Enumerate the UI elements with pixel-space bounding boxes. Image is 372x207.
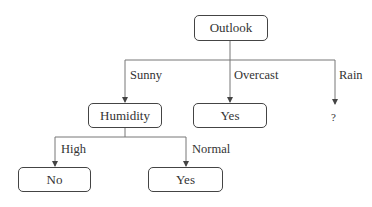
overcast-edge-label: Overcast (234, 69, 278, 82)
rain-unknown-node: ? (331, 112, 336, 123)
outlook-node-label: Outlook (210, 20, 253, 36)
overcast-yes-node: Yes (193, 103, 267, 128)
high-no-node-label: No (47, 172, 63, 188)
normal-edge-label: Normal (192, 143, 230, 156)
humidity-node: Humidity (88, 103, 162, 128)
normal-yes-node: Yes (148, 167, 223, 192)
humidity-node-label: Humidity (100, 108, 150, 124)
high-no-node: No (18, 167, 91, 192)
sunny-edge-label: Sunny (130, 69, 162, 82)
high-edge-label: High (61, 143, 86, 156)
outlook-node: Outlook (194, 15, 268, 41)
normal-yes-node-label: Yes (176, 172, 195, 188)
overcast-yes-node-label: Yes (221, 108, 240, 124)
rain-edge-label: Rain (339, 69, 363, 82)
